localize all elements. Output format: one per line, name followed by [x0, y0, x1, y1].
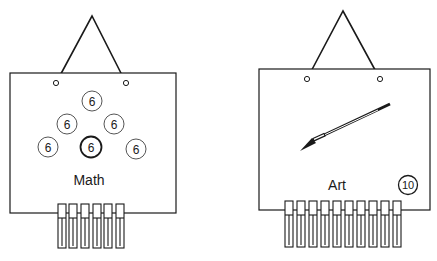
- counter-value: 6: [89, 95, 96, 109]
- clothespin: [393, 201, 401, 247]
- art-hook-right: [377, 76, 382, 81]
- math-label: Math: [73, 172, 104, 188]
- clothespin: [93, 204, 101, 248]
- counter: 6: [38, 137, 58, 157]
- art-board: Art 10: [259, 11, 430, 247]
- art-badge: 10: [399, 176, 418, 195]
- counter: 6: [126, 139, 146, 159]
- clothespin: [309, 201, 317, 247]
- clothespin: [381, 201, 389, 247]
- clothespin: [81, 204, 89, 248]
- art-badge-value: 10: [402, 179, 414, 191]
- counter: 6: [104, 114, 124, 134]
- counter: 6: [57, 114, 77, 134]
- clothespin: [321, 201, 329, 247]
- clothespin: [345, 201, 353, 247]
- clothespin: [357, 201, 365, 247]
- math-board: 6 6 6 6 6 6 Math: [10, 16, 176, 248]
- clothespin: [297, 201, 305, 247]
- math-hook-left: [53, 80, 58, 85]
- counter-highlighted: 6: [81, 137, 102, 158]
- counter-value: 6: [64, 118, 71, 132]
- clothespin: [333, 201, 341, 247]
- art-hook-left: [304, 76, 309, 81]
- clothespin: [104, 204, 112, 248]
- clothespin: [116, 204, 124, 248]
- counter-value: 6: [45, 141, 52, 155]
- clothespin: [69, 204, 77, 248]
- counter-value: 6: [111, 118, 118, 132]
- art-label: Art: [328, 177, 346, 193]
- clothespin: [58, 204, 66, 248]
- counter-value: 6: [88, 141, 95, 155]
- illustration: 6 6 6 6 6 6 Math: [0, 0, 437, 261]
- clothespin: [369, 201, 377, 247]
- clothespin: [285, 201, 293, 247]
- counter-value: 6: [133, 143, 140, 157]
- counter: 6: [82, 91, 102, 111]
- math-hook-right: [123, 80, 128, 85]
